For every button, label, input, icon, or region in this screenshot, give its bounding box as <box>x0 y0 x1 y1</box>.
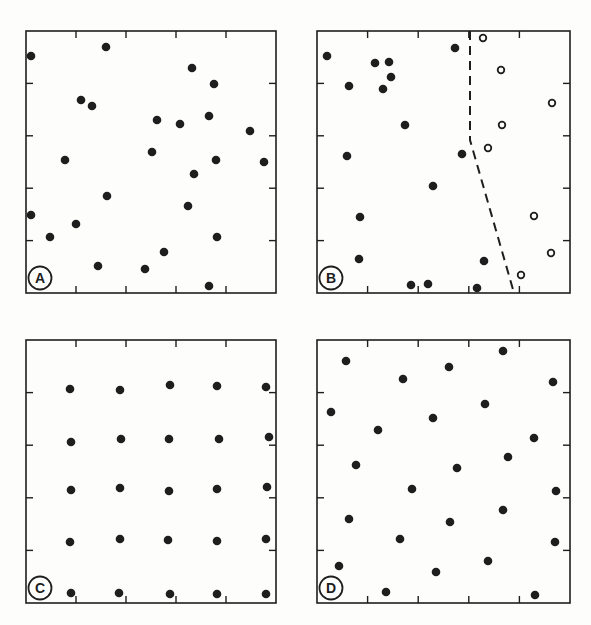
filled-point-marker <box>327 408 336 417</box>
filled-point-marker <box>176 120 185 129</box>
filled-point-marker <box>212 156 221 165</box>
filled-point-marker <box>66 385 75 394</box>
filled-point-marker <box>210 80 219 89</box>
filled-point-marker <box>401 121 410 130</box>
filled-point-marker <box>160 248 169 257</box>
filled-point-marker <box>213 485 222 494</box>
filled-point-marker <box>184 202 193 211</box>
panel-label-badge: A <box>29 267 52 290</box>
open-point-marker <box>518 272 525 279</box>
panel-label: D <box>326 580 336 596</box>
filled-point-marker <box>480 257 489 266</box>
panel-plot: D <box>317 340 570 603</box>
filled-point-marker <box>153 116 162 125</box>
filled-point-marker <box>188 64 197 73</box>
filled-point-marker <box>103 192 112 201</box>
filled-point-marker <box>343 152 352 161</box>
filled-point-marker <box>385 58 394 67</box>
filled-point-marker <box>356 213 365 222</box>
filled-point-marker <box>148 148 157 157</box>
filled-point-marker <box>205 112 214 121</box>
filled-point-marker <box>399 375 408 384</box>
filled-point-marker <box>205 282 214 291</box>
filled-point-marker <box>429 182 438 191</box>
filled-point-marker <box>424 280 433 289</box>
filled-point-marker <box>117 435 126 444</box>
filled-point-marker <box>265 433 274 442</box>
filled-point-marker <box>382 588 391 597</box>
filled-point-marker <box>429 414 438 423</box>
filled-point-marker <box>445 363 454 372</box>
filled-point-marker <box>61 156 70 165</box>
filled-point-marker <box>484 557 493 566</box>
filled-point-marker <box>323 52 332 61</box>
dashed-boundary-line <box>470 31 514 293</box>
filled-point-marker <box>141 265 150 274</box>
filled-point-marker <box>345 515 354 524</box>
filled-point-marker <box>453 464 462 473</box>
open-point-marker <box>480 35 487 42</box>
filled-point-marker <box>345 82 354 91</box>
filled-point-marker <box>262 590 271 599</box>
panel-label: C <box>35 580 45 596</box>
panel-label-badge: B <box>320 267 343 290</box>
filled-point-marker <box>116 386 125 395</box>
panel-plot: B <box>317 31 570 293</box>
filled-point-marker <box>77 96 86 105</box>
panel-frame <box>26 340 276 603</box>
panel-d: D <box>317 340 570 603</box>
open-point-marker <box>548 250 555 257</box>
filled-point-marker <box>66 538 75 547</box>
filled-point-marker <box>407 281 416 290</box>
filled-point-marker <box>262 383 271 392</box>
filled-point-marker <box>213 590 222 599</box>
filled-point-marker <box>499 506 508 515</box>
filled-point-marker <box>551 538 560 547</box>
panel-plot: C <box>26 340 276 603</box>
panel-c: C <box>26 340 276 603</box>
filled-point-marker <box>88 102 97 111</box>
filled-point-marker <box>165 435 174 444</box>
panel-label-badge: D <box>320 577 343 600</box>
filled-point-marker <box>246 127 255 136</box>
filled-point-marker <box>164 536 173 545</box>
filled-point-marker <box>215 435 224 444</box>
filled-point-marker <box>260 158 269 167</box>
filled-point-marker <box>166 381 175 390</box>
panel-label: A <box>35 270 45 286</box>
filled-point-marker <box>213 537 222 546</box>
filled-point-marker <box>531 591 540 600</box>
filled-point-marker <box>102 43 111 52</box>
filled-point-marker <box>27 211 36 220</box>
filled-point-marker <box>379 85 388 94</box>
filled-point-marker <box>481 400 490 409</box>
filled-point-marker <box>46 233 55 242</box>
filled-point-marker <box>213 382 222 391</box>
filled-point-marker <box>213 233 222 242</box>
filled-point-marker <box>374 426 383 435</box>
filled-point-marker <box>396 535 405 544</box>
filled-point-marker <box>67 589 76 598</box>
open-point-marker <box>499 122 506 129</box>
filled-point-marker <box>116 484 125 493</box>
filled-point-marker <box>499 347 508 356</box>
panel-frame <box>317 31 570 293</box>
filled-point-marker <box>165 487 174 496</box>
filled-point-marker <box>451 44 460 53</box>
filled-point-marker <box>408 485 417 494</box>
filled-point-marker <box>263 483 272 492</box>
filled-point-marker <box>371 59 380 68</box>
filled-point-marker <box>458 150 467 159</box>
filled-point-marker <box>446 518 455 527</box>
filled-point-marker <box>504 453 513 462</box>
open-point-marker <box>485 145 492 152</box>
panel-label-badge: C <box>29 577 52 600</box>
panel-b: B <box>317 31 570 293</box>
filled-point-marker <box>94 262 103 271</box>
filled-point-marker <box>552 487 561 496</box>
filled-point-marker <box>116 535 125 544</box>
filled-point-marker <box>432 568 441 577</box>
panel-plot: A <box>26 31 276 293</box>
filled-point-marker <box>335 562 344 571</box>
filled-point-marker <box>473 284 482 293</box>
